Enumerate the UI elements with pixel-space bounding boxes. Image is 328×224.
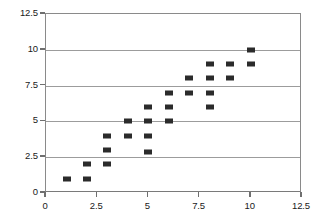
data-point: [247, 62, 255, 67]
y-axis-tick: [40, 120, 45, 122]
x-axis-tick-label: 7.5: [192, 200, 205, 211]
data-point: [83, 162, 91, 167]
gridline: [46, 157, 300, 158]
data-point: [206, 62, 214, 67]
x-axis-tick-label: 0: [42, 200, 47, 211]
data-point: [83, 176, 91, 181]
data-point: [165, 105, 173, 110]
gridline: [46, 121, 300, 122]
data-point: [247, 47, 255, 52]
data-point: [63, 176, 71, 181]
data-point: [165, 119, 173, 124]
data-point: [226, 76, 234, 81]
data-point: [103, 148, 111, 153]
x-axis-tick: [147, 192, 149, 197]
y-axis-tick-label: 2.5: [25, 150, 38, 161]
data-point: [124, 133, 132, 138]
y-axis-tick: [40, 12, 45, 14]
data-point: [206, 105, 214, 110]
data-point: [185, 90, 193, 95]
x-axis-tick-label: 5: [145, 200, 150, 211]
plot-area: [45, 13, 301, 192]
x-axis-tick-label: 12.5: [292, 200, 310, 211]
y-axis-tick-label: 12.5: [20, 7, 38, 18]
data-point: [206, 90, 214, 95]
data-point: [206, 76, 214, 81]
scatter-chart: 02.557.51012.5 02.557.51012.5: [0, 0, 328, 224]
x-axis-tick: [96, 192, 98, 197]
data-point: [226, 62, 234, 67]
x-axis-tick-label: 10: [245, 200, 255, 211]
data-point: [103, 162, 111, 167]
y-axis-tick-label: 0: [33, 186, 38, 197]
x-axis-tick: [249, 192, 251, 197]
data-point: [144, 133, 152, 138]
x-axis-tick-label: 2.5: [90, 200, 103, 211]
data-point: [185, 76, 193, 81]
data-point: [144, 149, 152, 154]
gridline: [46, 50, 300, 51]
y-axis-tick-label: 10: [28, 43, 38, 54]
y-axis-tick: [40, 84, 45, 86]
x-axis-tick: [300, 192, 302, 197]
x-axis-tick: [198, 192, 200, 197]
data-point: [165, 90, 173, 95]
x-axis-tick: [44, 192, 46, 197]
y-axis-tick: [40, 155, 45, 157]
y-axis-tick: [40, 48, 45, 50]
data-point: [124, 119, 132, 124]
y-axis-tick-label: 7.5: [25, 79, 38, 90]
data-point: [144, 119, 152, 124]
data-point: [103, 133, 111, 138]
gridline: [46, 86, 300, 87]
data-point: [144, 105, 152, 110]
y-axis-tick-label: 5: [33, 114, 38, 125]
